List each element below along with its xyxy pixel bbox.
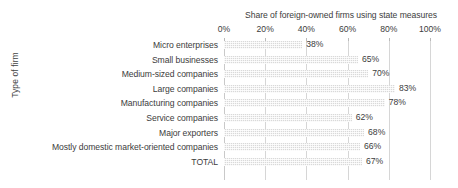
bar-value-label: 62% [356,112,373,122]
bar-value-label: 66% [364,141,381,151]
bar-row[interactable]: 78% [224,96,430,111]
bar-value-label: 70% [372,68,389,78]
bar-chart: Type of firm Share of foreign-owned firm… [0,0,458,188]
bar-row[interactable]: 67% [224,155,430,170]
x-tick-label: 40% [286,24,326,34]
x-axis-tick-labels: 0%20%40%60%80%100% [224,24,430,36]
x-tick-label: 60% [328,24,368,34]
category-label: Large companies [3,84,218,94]
category-label: Micro enterprises [3,40,218,50]
bar-value-label: 68% [368,127,385,137]
x-tick-label: 80% [369,24,409,34]
plot-area: 38%65%70%83%78%62%68%66%67% [224,38,430,180]
category-label: TOTAL [3,157,218,167]
bar-row[interactable]: 66% [224,140,430,155]
bar[interactable] [224,85,395,93]
bar[interactable] [224,143,360,151]
bar[interactable] [224,114,352,122]
category-label: Service companies [3,113,218,123]
x-tick-label: 100% [410,24,450,34]
bar-row[interactable]: 83% [224,82,430,97]
bars-layer: 38%65%70%83%78%62%68%66%67% [224,38,430,180]
bar[interactable] [224,99,385,107]
bar-row[interactable]: 70% [224,67,430,82]
bar-row[interactable]: 38% [224,38,430,53]
bar[interactable] [224,129,364,137]
category-label: Major exporters [3,128,218,138]
bar-value-label: 83% [399,83,416,93]
category-label: Mostly domestic market-oriented companie… [3,142,218,152]
category-label: Medium-sized companies [3,69,218,79]
bar-value-label: 65% [362,54,379,64]
chart-title: Share of foreign-owned firms using state… [224,10,458,20]
bar-value-label: 78% [389,97,406,107]
bar-row[interactable]: 65% [224,53,430,68]
bar[interactable] [224,70,368,78]
gridline [430,38,431,180]
bar-value-label: 67% [366,156,383,166]
category-label: Manufacturing companies [3,98,218,108]
y-axis-category-labels: Micro enterprisesSmall businessesMedium-… [0,38,221,180]
bar[interactable] [224,158,362,166]
x-tick-label: 20% [245,24,285,34]
bar-row[interactable]: 62% [224,111,430,126]
category-label: Small businesses [3,55,218,65]
bar-row[interactable]: 68% [224,126,430,141]
bar[interactable] [224,41,302,49]
bar[interactable] [224,56,358,64]
bar-value-label: 38% [306,39,323,49]
x-tick-mark [430,38,431,41]
x-tick-label: 0% [204,24,244,34]
